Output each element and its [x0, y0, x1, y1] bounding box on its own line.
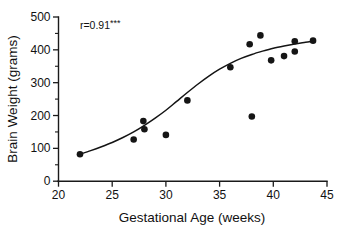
- x-tick-label: 35: [213, 188, 227, 202]
- chart-figure: 0100200300400500 202530354045 r=0.91*** …: [0, 0, 341, 229]
- y-tick-label: 400: [30, 43, 50, 57]
- data-point: [268, 57, 275, 64]
- y-axis-title: Brain Weight (grams): [5, 35, 20, 162]
- data-point: [130, 136, 137, 143]
- x-axis-title: Gestational Age (weeks): [119, 210, 265, 225]
- y-tick-label: 200: [30, 109, 50, 123]
- y-tick-label: 300: [30, 76, 50, 90]
- data-point: [140, 118, 147, 125]
- x-tick-label: 45: [320, 188, 334, 202]
- x-tick-label: 30: [159, 188, 173, 202]
- significance-stars: ***: [110, 18, 121, 28]
- y-tick-label: 0: [44, 174, 51, 188]
- data-point: [310, 37, 317, 44]
- x-tick-label: 40: [267, 188, 281, 202]
- data-point: [77, 151, 84, 158]
- data-point: [281, 53, 288, 60]
- scatter-plot: 0100200300400500 202530354045 r=0.91*** …: [0, 0, 341, 229]
- y-tick-label: 500: [30, 10, 50, 24]
- data-point: [184, 97, 191, 104]
- correlation-value: r=0.91: [80, 19, 110, 31]
- data-point: [257, 32, 264, 39]
- data-point: [249, 113, 256, 120]
- data-point: [141, 126, 148, 133]
- data-point: [291, 38, 298, 45]
- data-point: [291, 48, 298, 55]
- x-tick-label: 20: [52, 188, 66, 202]
- x-tick-label: 25: [106, 188, 120, 202]
- y-tick-label: 100: [30, 141, 50, 155]
- data-point: [227, 64, 234, 71]
- data-point: [163, 132, 170, 139]
- data-point: [246, 41, 253, 48]
